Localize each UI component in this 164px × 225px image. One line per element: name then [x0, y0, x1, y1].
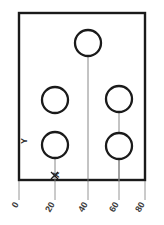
hole-middle-right: [106, 86, 132, 112]
hole-bottom-left: [42, 132, 68, 158]
x-axis-label: X: [51, 172, 61, 178]
hole-bottom-right: [106, 133, 132, 159]
axis-tick-label-40: 40: [76, 200, 90, 214]
hole-top-center: [75, 30, 101, 56]
axis-tick-label-60: 60: [107, 200, 121, 214]
axis-tick-label-20: 20: [43, 200, 57, 214]
axis-tick-label-group: 0 20 40 60 80: [10, 200, 147, 214]
extension-line-group: [19, 181, 145, 200]
y-axis-label: Y: [19, 138, 29, 144]
axis-tick-label-0: 0: [10, 200, 21, 209]
hole-middle-left: [42, 87, 68, 113]
technical-drawing-viewport: Y X 0 20 40 60 80: [0, 0, 164, 225]
technical-drawing-canvas: Y X 0 20 40 60 80: [0, 0, 164, 225]
axis-tick-label-80: 80: [133, 200, 147, 214]
